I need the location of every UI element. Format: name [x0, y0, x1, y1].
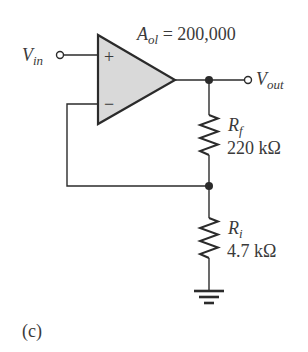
ri-value-label: 4.7 kΩ — [227, 241, 276, 261]
rf-value-label: 220 kΩ — [227, 138, 281, 158]
rf-name-label: Rf — [227, 115, 245, 138]
vin-terminal — [57, 52, 64, 59]
feedback-wire — [67, 104, 209, 186]
gain-label: Aol = 200,000 — [136, 24, 236, 47]
rf-resistor-symbol — [200, 115, 218, 155]
figure-caption: (c) — [22, 321, 42, 342]
ground-icon — [194, 291, 224, 303]
opamp-plus-sign: + — [104, 47, 114, 67]
circuit-diagram: + − Aol = 200,000 Vin Vout Rf 220 kΩ Ri … — [0, 0, 308, 352]
vout-terminal — [245, 77, 252, 84]
vin-label: Vin — [22, 45, 43, 68]
opamp-minus-sign: − — [104, 94, 114, 114]
vout-label: Vout — [256, 69, 284, 92]
ri-name-label: Ri — [227, 218, 243, 241]
ri-resistor-symbol — [200, 218, 218, 258]
